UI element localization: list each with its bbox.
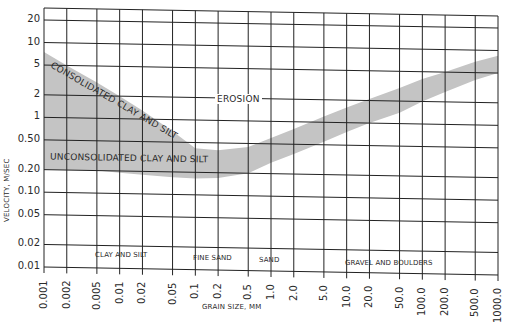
y-tick-label: 0.50 [0, 133, 40, 144]
x-tick-label: 200.0 [439, 287, 450, 316]
region-gravel-and-boulders: GRAVEL AND BOULDERS [345, 259, 433, 267]
x-tick-label: 0.002 [61, 281, 72, 310]
y-tick-label: 10 [0, 36, 40, 47]
y-tick-label: 20 [0, 13, 40, 24]
x-tick-label: 0.01 [114, 282, 125, 304]
x-tick-label: 0.1 [189, 283, 200, 299]
y-tick-label: 1 [0, 110, 40, 121]
x-tick-label: 0.005 [91, 281, 102, 310]
x-tick-label: 1.0 [265, 284, 276, 300]
region-sand: SAND [259, 256, 279, 264]
annotation-erosion: EROSION [215, 94, 262, 104]
y-axis-label: VELOCITY, M/SEC [3, 159, 11, 222]
x-axis-label: GRAIN SIZE, MM [202, 303, 261, 311]
y-tick-label: 0.02 [0, 237, 40, 248]
x-tick-label: 5.0 [318, 285, 329, 301]
x-tick-label: 1000.0 [492, 288, 503, 323]
x-tick-label: 50.0 [394, 287, 405, 309]
y-tick-label: 5 [0, 58, 40, 69]
x-tick-label: 2.0 [288, 285, 299, 301]
x-tick-label: 10.0 [341, 286, 352, 308]
x-tick-label: 0.001 [38, 280, 49, 309]
x-tick-label: 500.0 [469, 288, 480, 317]
x-tick-label: 100.0 [416, 287, 427, 316]
region-clay-and-silt: CLAY AND SILT [95, 251, 147, 259]
x-tick-label: 0.02 [136, 282, 147, 304]
x-tick-label: 0.2 [212, 283, 223, 299]
x-tick-label: 0.05 [167, 283, 178, 305]
x-tick-label: 20.0 [363, 286, 374, 308]
x-tick-label: 0.5 [242, 284, 253, 300]
y-tick-label: 2 [0, 88, 40, 99]
region-fine-sand: FINE SAND [193, 254, 232, 262]
y-tick-label: 0.01 [0, 260, 40, 271]
